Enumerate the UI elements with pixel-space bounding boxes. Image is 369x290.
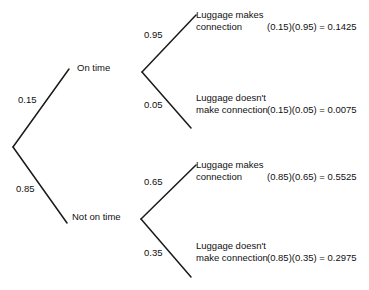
product-label-3: (0.85)(0.65) = 0.5525 <box>267 171 357 183</box>
branch-root-on-time <box>13 69 69 147</box>
probability-tree-diagram: 0.15 0.85 On time Not on time 0.95 0.05 … <box>0 0 369 290</box>
outcome-label-1: Luggage makes connection <box>196 9 268 32</box>
node-label-on-time: On time <box>77 62 110 74</box>
outcome-label-3: Luggage makes connection <box>196 159 268 182</box>
product-label-4: (0.85)(0.35) = 0.2975 <box>267 252 357 264</box>
branch-on-time-makes <box>142 15 196 72</box>
product-label-1: (0.15)(0.95) = 0.1425 <box>267 21 357 33</box>
probability-label-on-time: 0.15 <box>18 94 37 106</box>
probability-label-makes-connection-on-time: 0.95 <box>144 29 163 41</box>
probability-label-misses-connection-not-on-time: 0.35 <box>144 247 163 259</box>
probability-label-makes-connection-not-on-time: 0.65 <box>144 176 163 188</box>
probability-label-not-on-time: 0.85 <box>16 183 35 195</box>
product-label-2: (0.15)(0.05) = 0.0075 <box>267 104 357 116</box>
tree-branch-lines <box>0 0 369 290</box>
outcome-label-2: Luggage doesn't make connection <box>196 92 274 115</box>
node-label-not-on-time: Not on time <box>72 211 121 223</box>
outcome-label-4: Luggage doesn't make connection <box>196 240 274 263</box>
probability-label-misses-connection-on-time: 0.05 <box>144 99 163 111</box>
branch-not-on-time-makes <box>141 165 196 219</box>
